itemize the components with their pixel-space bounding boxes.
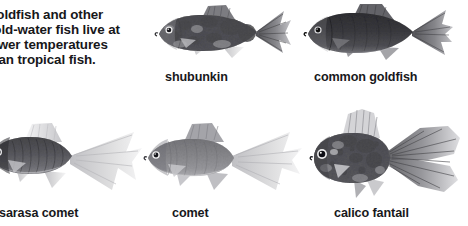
caption-line-4: than tropical fish. <box>0 52 136 67</box>
label-sarasa-comet: sarasa comet <box>0 206 78 220</box>
fish-comet <box>140 120 310 202</box>
caption-line-2: cold-water fish live at <box>0 22 136 37</box>
goldfish-varieties-figure: Goldfish and other cold-water fish live … <box>0 0 468 226</box>
caption-text-block: Goldfish and other cold-water fish live … <box>0 7 136 67</box>
caption-line-3: lower temperatures <box>0 37 136 52</box>
label-common-goldfish: common goldfish <box>314 70 417 84</box>
fish-calico-fantail <box>308 108 468 204</box>
label-calico-fantail: calico fantail <box>334 206 409 220</box>
fish-sarasa-comet <box>0 118 146 200</box>
label-shubunkin: shubunkin <box>165 70 228 84</box>
fish-shubunkin <box>152 2 292 66</box>
fish-common-goldfish <box>300 2 456 66</box>
label-comet: comet <box>172 206 209 220</box>
caption-line-1: Goldfish and other <box>0 7 136 22</box>
